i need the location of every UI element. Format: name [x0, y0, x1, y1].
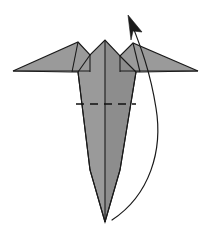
origami-figure-svg: Origami fold step diagram Gray paper mod… — [0, 0, 211, 243]
origami-diagram-canvas: Origami fold step diagram Gray paper mod… — [0, 0, 211, 243]
fold-arrow-head-icon — [128, 15, 142, 40]
